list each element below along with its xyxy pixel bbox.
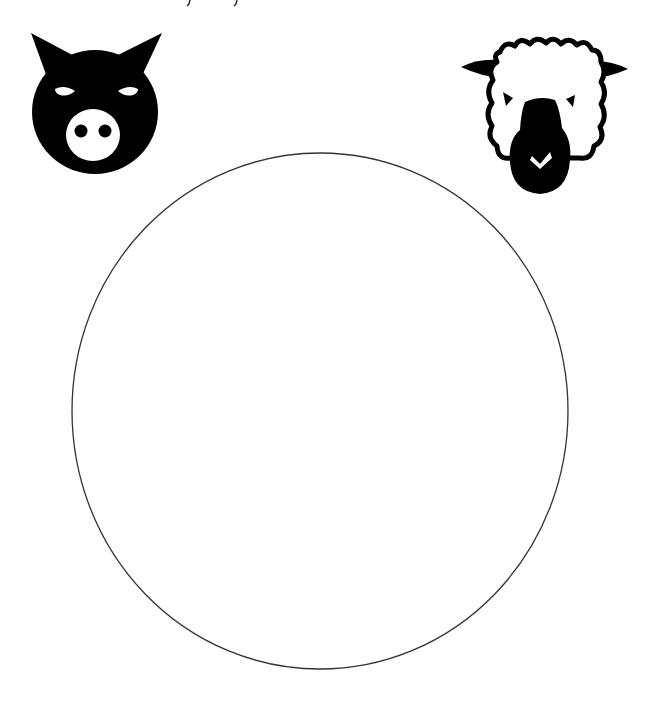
header-text-remnant — [0, 0, 659, 8]
sheep-icon — [455, 30, 635, 200]
pig-icon — [25, 28, 170, 180]
